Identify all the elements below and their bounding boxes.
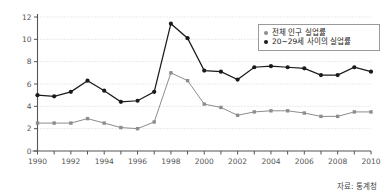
y-tick-label: 6 [27, 80, 32, 89]
data-point-youth [369, 70, 373, 74]
data-point-youth [269, 64, 273, 68]
data-point-total-population [236, 114, 239, 117]
x-tick-label: 2010 [361, 157, 380, 166]
data-point-total-population [336, 115, 339, 118]
x-tick-label: 2004 [261, 157, 280, 166]
x-tick-label: 1994 [95, 157, 114, 166]
data-point-youth [69, 90, 73, 94]
data-point-total-population [119, 126, 122, 129]
legend-item-youth: 20~29세 사이의 실업률 [264, 37, 373, 46]
y-tick-label: 2 [27, 124, 32, 133]
legend-marker-youth-icon [264, 40, 268, 44]
data-point-total-population [86, 117, 89, 120]
y-tick-label: 4 [27, 102, 32, 111]
data-point-youth [185, 36, 189, 40]
data-point-total-population [103, 121, 106, 124]
data-point-total-population [203, 102, 206, 105]
data-point-youth [236, 77, 240, 81]
data-point-total-population [286, 109, 289, 112]
data-point-youth [336, 73, 340, 77]
x-tick-label: 2002 [228, 157, 247, 166]
data-point-total-population [69, 121, 72, 124]
data-point-total-population [186, 79, 189, 82]
data-point-total-population [136, 127, 139, 130]
data-point-total-population [253, 110, 256, 113]
data-point-youth [135, 99, 139, 103]
data-point-total-population [303, 111, 306, 114]
data-point-total-population [219, 106, 222, 109]
data-point-total-population [369, 110, 372, 113]
data-point-youth [35, 93, 39, 97]
y-tick-label: 0 [27, 147, 32, 156]
unemployment-rate-line-chart: 0246810121990199219941996199820002002200… [0, 0, 383, 195]
legend-marker-total-population-icon [264, 31, 268, 35]
x-tick-label: 2006 [295, 157, 314, 166]
data-point-total-population [153, 120, 156, 123]
data-point-total-population [269, 109, 272, 112]
legend-label-total-population: 전체 인구 실업률 [272, 28, 326, 37]
data-point-total-population [353, 110, 356, 113]
x-tick-label: 1990 [28, 157, 47, 166]
x-tick-label: 1996 [128, 157, 147, 166]
data-point-total-population [169, 71, 172, 74]
x-tick-label: 1998 [161, 157, 180, 166]
source-note: 자료: 통계청 [337, 180, 377, 191]
y-tick-label: 8 [27, 57, 32, 66]
legend-item-total-population: 전체 인구 실업률 [264, 28, 373, 37]
y-tick-label: 10 [22, 35, 32, 44]
data-point-total-population [52, 121, 55, 124]
data-point-youth [169, 22, 173, 26]
data-point-total-population [319, 115, 322, 118]
x-tick-label: 1992 [61, 157, 80, 166]
data-point-youth [52, 94, 56, 98]
legend-label-youth: 20~29세 사이의 실업률 [272, 37, 351, 46]
data-point-youth [85, 79, 89, 83]
chart-legend: 전체 인구 실업률 20~29세 사이의 실업률 [258, 24, 380, 51]
data-point-youth [102, 89, 106, 93]
data-point-youth [352, 65, 356, 69]
x-tick-label: 2000 [195, 157, 214, 166]
data-point-youth [219, 70, 223, 74]
y-tick-label: 12 [22, 13, 32, 22]
data-point-total-population [36, 121, 39, 124]
data-point-youth [152, 90, 156, 94]
x-tick-label: 2008 [328, 157, 347, 166]
data-point-youth [286, 65, 290, 69]
data-point-youth [252, 65, 256, 69]
data-point-youth [202, 69, 206, 73]
data-point-youth [319, 73, 323, 77]
data-point-youth [302, 66, 306, 70]
data-point-youth [119, 100, 123, 104]
